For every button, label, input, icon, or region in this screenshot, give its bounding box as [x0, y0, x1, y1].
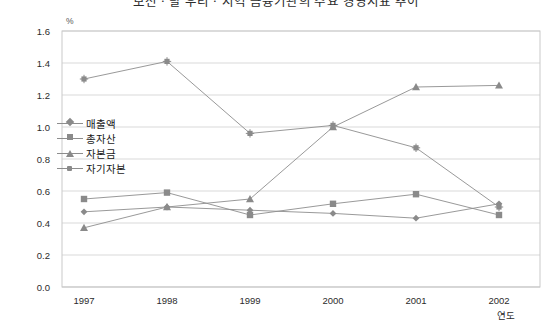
chart-legend: 매출액 총자산 자본금 자기자본 — [57, 116, 153, 176]
legend-item-total-assets: 총자산 — [57, 131, 153, 146]
triangle-marker-icon — [57, 148, 83, 159]
square-marker-icon — [57, 133, 83, 144]
legend-label: 매출액 — [83, 116, 116, 131]
diamond-marker-icon — [57, 118, 83, 129]
legend-label: 총자산 — [83, 131, 116, 146]
legend-item-equity: 자기자본 — [57, 161, 153, 176]
legend-label: 자기자본 — [83, 161, 126, 176]
legend-item-capital-stock: 자본금 — [57, 146, 153, 161]
chart-container: 보전ㆍ탈 우리ㆍ지역 금융기관의 주요 경영지표 추이 % 1.6 1.4 1.… — [0, 0, 552, 325]
legend-item-sales: 매출액 — [57, 116, 153, 131]
star-marker-icon — [57, 163, 83, 174]
legend-label: 자본금 — [83, 146, 116, 161]
